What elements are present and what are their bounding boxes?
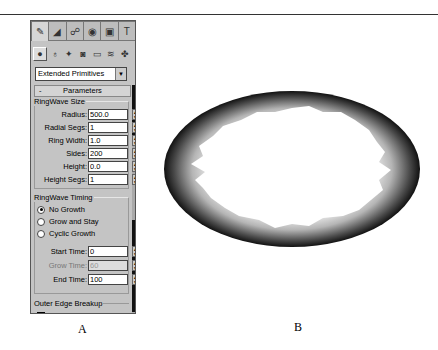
field-label: Sides:	[34, 149, 88, 158]
shapes-icon[interactable]: ♁	[49, 48, 61, 60]
end-time-field: End Time: ▲▼	[34, 274, 136, 285]
height-segs-field: Height Segs: ▲▼	[34, 174, 136, 185]
spinner-icon[interactable]: ▲▼	[132, 122, 136, 133]
spinner-icon[interactable]: ▲▼	[132, 109, 136, 120]
collapse-toggle: -	[39, 86, 42, 96]
grow-time-field: Grow Time: ▲▼	[34, 260, 136, 271]
radial-segs-input[interactable]	[88, 122, 128, 133]
divider-line	[0, 14, 438, 15]
modify-icon: ◢	[53, 26, 61, 37]
ring-width-field: Ring Width: ▲▼	[34, 135, 136, 146]
parameters-rollout-header[interactable]: - Parameters	[34, 85, 131, 97]
geometry-icon[interactable]: ●	[33, 47, 47, 61]
radio-label: Cyclic Growth	[49, 229, 95, 238]
radio-no-growth[interactable]: No Growth	[37, 205, 85, 214]
field-label: Height Segs:	[34, 175, 88, 184]
ring-width-input[interactable]	[88, 135, 128, 146]
dropdown-value: Extended Primitives	[38, 69, 104, 78]
sides-input[interactable]	[88, 148, 128, 159]
tab-create[interactable]: ✎	[31, 21, 49, 41]
spinner-icon[interactable]: ▲▼	[132, 161, 136, 172]
radio-cyclic-growth[interactable]: Cyclic Growth	[37, 229, 95, 238]
ringwave-shape	[163, 90, 421, 248]
field-label: Ring Width:	[34, 136, 88, 145]
radio-label: Grow and Stay	[49, 217, 99, 226]
helpers-icon[interactable]: ▭	[91, 48, 103, 60]
caption-a: A	[78, 322, 87, 337]
primitive-type-dropdown[interactable]: Extended Primitives ▼	[35, 67, 127, 81]
ringwave-render	[163, 90, 421, 248]
start-time-input[interactable]	[88, 246, 128, 257]
radio-grow-and-stay[interactable]: Grow and Stay	[37, 217, 99, 226]
category-toolbar: ● ♁ ✦ ◙ ▭ ≋ ✤	[33, 46, 133, 62]
radio-icon	[37, 206, 45, 214]
tab-hierarchy[interactable]: ☍	[66, 21, 84, 41]
start-time-field: Start Time: ▲▼	[34, 246, 136, 257]
cameras-icon[interactable]: ◙	[77, 48, 89, 60]
rollout-title: Parameters	[63, 86, 102, 95]
spinner-icon[interactable]: ▲▼	[132, 246, 136, 257]
end-time-input[interactable]	[88, 274, 128, 285]
radius-field: Radius: ▲▼	[34, 109, 136, 120]
display-icon: ▣	[105, 26, 114, 37]
panel-tabs: ✎ ◢ ☍ ◉ ▣ T	[31, 21, 135, 43]
field-label: End Time:	[34, 275, 88, 284]
spinner-icon[interactable]: ▲▼	[132, 174, 136, 185]
height-field: Height: ▲▼	[34, 161, 136, 172]
field-label: Radial Segs:	[34, 123, 88, 132]
utilities-icon: T	[124, 26, 130, 37]
group-label: RingWave Size	[33, 97, 86, 106]
outer-edge-breakup-label: Outer Edge Breakup	[33, 299, 103, 308]
spinner-icon[interactable]: ▲▼	[132, 135, 136, 146]
systems-icon[interactable]: ✤	[119, 48, 131, 60]
height-segs-input[interactable]	[88, 174, 128, 185]
hierarchy-icon: ☍	[70, 26, 80, 37]
grow-time-input	[88, 260, 128, 271]
motion-icon: ◉	[88, 26, 97, 37]
field-label: Grow Time:	[34, 261, 88, 270]
command-panel: ✎ ◢ ☍ ◉ ▣ T ● ♁ ✦ ◙ ▭ ≋ ✤ Extended Primi…	[30, 20, 136, 314]
radial-segs-field: Radial Segs: ▲▼	[34, 122, 136, 133]
lights-icon[interactable]: ✦	[63, 48, 75, 60]
checkbox-partial	[37, 312, 45, 313]
spinner-icon: ▲▼	[132, 260, 136, 271]
tab-display[interactable]: ▣	[100, 21, 118, 41]
field-label: Height:	[34, 162, 88, 171]
spinner-icon[interactable]: ▲▼	[132, 148, 136, 159]
spinner-icon[interactable]: ▲▼	[132, 274, 136, 285]
sides-field: Sides: ▲▼	[34, 148, 136, 159]
tab-motion[interactable]: ◉	[83, 21, 101, 41]
caption-b: B	[294, 320, 302, 335]
field-label: Start Time:	[34, 247, 88, 256]
create-icon: ✎	[36, 26, 44, 37]
field-label: Radius:	[34, 110, 88, 119]
radio-icon	[37, 218, 45, 226]
tab-modify[interactable]: ◢	[48, 21, 66, 41]
group-label: RingWave Timing	[33, 193, 94, 202]
radius-input[interactable]	[88, 109, 128, 120]
tab-utilities[interactable]: T	[118, 21, 136, 41]
height-input[interactable]	[88, 161, 128, 172]
radio-icon	[37, 230, 45, 238]
radio-label: No Growth	[49, 205, 85, 214]
chevron-down-icon[interactable]: ▼	[115, 68, 126, 80]
space-warps-icon[interactable]: ≋	[105, 48, 117, 60]
